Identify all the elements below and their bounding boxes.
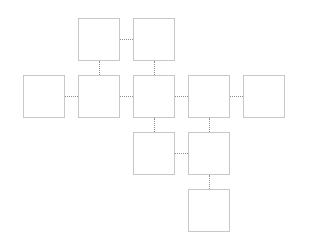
connector-line: [99, 61, 100, 75]
diagram-node-n3[interactable]: [23, 75, 65, 118]
connector-line: [154, 61, 155, 75]
diagram-node-n10[interactable]: [188, 189, 230, 232]
connector-line: [120, 96, 133, 97]
diagram-node-n1[interactable]: [78, 18, 120, 61]
diagram-node-n4[interactable]: [78, 75, 120, 118]
connector-line: [209, 118, 210, 132]
diagram-node-n8[interactable]: [133, 132, 175, 175]
diagram-node-n9[interactable]: [188, 132, 230, 175]
connector-line: [175, 96, 188, 97]
diagram-node-n7[interactable]: [243, 75, 285, 118]
connector-line: [154, 118, 155, 132]
connector-line: [175, 153, 188, 154]
connector-line: [120, 39, 133, 40]
connector-line: [65, 96, 78, 97]
connector-line: [209, 175, 210, 189]
diagram-node-n5[interactable]: [133, 75, 175, 118]
diagram-node-n6[interactable]: [188, 75, 230, 118]
connector-line: [230, 96, 243, 97]
diagram-node-n2[interactable]: [133, 18, 175, 61]
